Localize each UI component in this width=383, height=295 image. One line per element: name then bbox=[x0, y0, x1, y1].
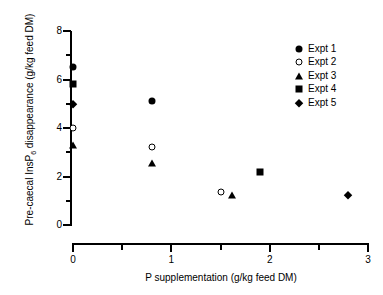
data-point-circle-open bbox=[70, 125, 77, 132]
x-tick-major bbox=[269, 245, 271, 252]
legend-marker-glyph bbox=[296, 86, 303, 93]
y-tick-minor bbox=[66, 151, 71, 153]
y-tick-major bbox=[63, 30, 71, 32]
data-point-diamond-filled bbox=[344, 191, 352, 199]
y-axis-title-subscript: 6 bbox=[30, 151, 37, 155]
data-point-circle-open bbox=[217, 189, 224, 196]
y-axis-title-text-suffix: disappearance (g/kg feed DM) bbox=[24, 14, 35, 151]
y-tick-label: 0 bbox=[44, 220, 62, 230]
legend-label: Expt 4 bbox=[306, 84, 336, 94]
x-tick-label: 1 bbox=[161, 255, 181, 265]
legend-label: Expt 5 bbox=[306, 98, 336, 108]
data-point-circle-filled bbox=[70, 64, 77, 71]
x-tick-label: 3 bbox=[358, 255, 378, 265]
y-axis-title: Pre-caecal InsP6 disappearance (g/kg fee… bbox=[24, 5, 39, 235]
legend-item[interactable]: Expt 3 bbox=[292, 69, 336, 83]
legend-item[interactable]: Expt 2 bbox=[292, 56, 336, 70]
y-tick-label: 6 bbox=[44, 75, 62, 85]
y-tick-minor bbox=[66, 54, 71, 56]
legend-marker-diamond-filled-icon bbox=[292, 96, 306, 110]
legend-marker-glyph bbox=[295, 99, 303, 107]
data-point-square-filled bbox=[70, 81, 77, 88]
legend-label: Expt 3 bbox=[306, 71, 336, 81]
legend-marker-square-filled-icon bbox=[292, 83, 306, 97]
x-tick-label: 2 bbox=[260, 255, 280, 265]
y-tick-label: 8 bbox=[44, 26, 62, 36]
y-tick-label: 2 bbox=[44, 172, 62, 182]
y-tick-major bbox=[63, 176, 71, 178]
legend-item[interactable]: Expt 4 bbox=[292, 83, 336, 97]
x-tick-minor bbox=[121, 245, 123, 250]
legend-marker-glyph bbox=[295, 72, 303, 79]
x-tick-major bbox=[72, 245, 74, 252]
legend-item[interactable]: Expt 5 bbox=[292, 96, 336, 110]
legend-marker-glyph bbox=[296, 45, 303, 52]
data-point-circle-filled bbox=[148, 98, 155, 105]
x-tick-major bbox=[367, 245, 369, 252]
legend-label: Expt 2 bbox=[306, 57, 336, 67]
legend-marker-circle-open-icon bbox=[292, 56, 306, 70]
x-tick-minor bbox=[220, 245, 222, 250]
y-tick-minor bbox=[66, 200, 71, 202]
legend-label: Expt 1 bbox=[306, 44, 336, 54]
legend-item[interactable]: Expt 1 bbox=[292, 42, 336, 56]
data-point-triangle-filled bbox=[148, 160, 156, 167]
chart-legend: Expt 1Expt 2Expt 3Expt 4Expt 5 bbox=[292, 42, 336, 110]
y-axis-title-text-prefix: Pre-caecal InsP bbox=[24, 155, 35, 226]
x-tick-major bbox=[170, 245, 172, 252]
data-point-triangle-filled bbox=[69, 141, 77, 148]
data-point-circle-open bbox=[148, 144, 155, 151]
y-tick-major bbox=[63, 224, 71, 226]
data-point-triangle-filled bbox=[228, 191, 236, 198]
legend-marker-circle-filled-icon bbox=[292, 42, 306, 56]
x-axis-title: P supplementation (g/kg feed DM) bbox=[73, 272, 369, 283]
scatter-chart-figure: 02468 0123 Pre-caecal InsP6 disappearanc… bbox=[0, 0, 383, 295]
x-tick-minor bbox=[318, 245, 320, 250]
y-tick-label: 4 bbox=[44, 123, 62, 133]
legend-marker-glyph bbox=[296, 59, 303, 66]
x-tick-label: 0 bbox=[63, 255, 83, 265]
legend-marker-triangle-filled-icon bbox=[292, 69, 306, 83]
data-point-square-filled bbox=[256, 168, 263, 175]
